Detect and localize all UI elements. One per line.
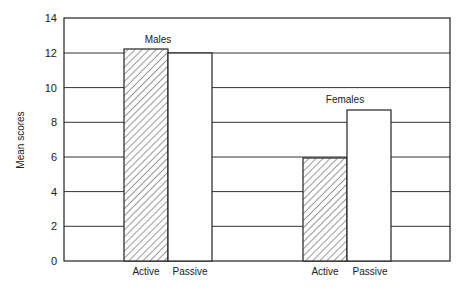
bar-females-passive [347, 110, 391, 261]
xlabel-males-passive: Passive [172, 266, 207, 277]
ytick-12: 12 [45, 47, 57, 59]
gridlines [64, 53, 450, 226]
y-axis-label: Mean scores [15, 111, 26, 168]
bar-chart: 0 2 4 6 8 10 12 14 Mean scores Males Fem… [0, 0, 470, 290]
ytick-8: 8 [51, 116, 57, 128]
ytick-4: 4 [51, 186, 57, 198]
bar-males-passive [168, 53, 212, 261]
group-label-males: Males [145, 34, 172, 45]
ytick-0: 0 [51, 255, 57, 267]
ytick-6: 6 [51, 151, 57, 163]
xlabel-females-passive: Passive [352, 266, 387, 277]
plot-frame [64, 18, 450, 261]
xlabel-females-active: Active [311, 266, 339, 277]
ytick-2: 2 [51, 220, 57, 232]
ytick-10: 10 [45, 82, 57, 94]
ytick-14: 14 [45, 12, 57, 24]
group-label-females: Females [326, 94, 364, 105]
xlabel-males-active: Active [132, 266, 160, 277]
